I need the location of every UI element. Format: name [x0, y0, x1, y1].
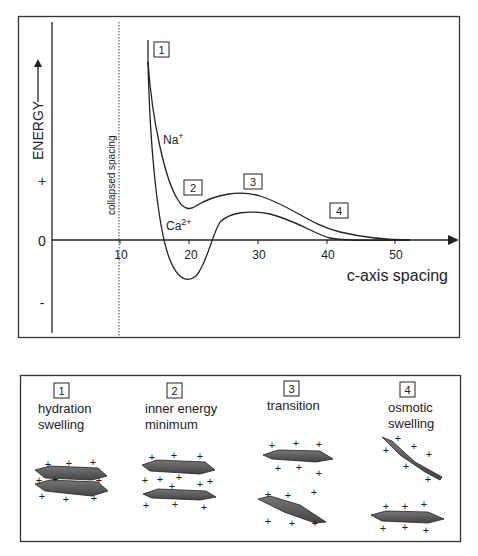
x-tick-40: 40	[321, 248, 335, 262]
svg-text:+: +	[91, 492, 97, 504]
svg-text:+: +	[201, 501, 207, 513]
x-tick-30: 30	[252, 248, 266, 262]
svg-text:+: +	[96, 474, 102, 486]
svg-text:minimum: minimum	[145, 417, 198, 432]
svg-text:+: +	[269, 439, 275, 451]
svg-text:+: +	[66, 457, 72, 469]
svg-text:+: +	[171, 449, 177, 461]
plot-frame	[19, 17, 460, 338]
x-tick-10: 10	[114, 248, 128, 262]
svg-text:inner energy: inner energy	[145, 401, 218, 416]
svg-text:+: +	[316, 438, 322, 450]
na-curve	[148, 62, 410, 240]
svg-text:+: +	[265, 515, 271, 527]
svg-text:+: +	[143, 499, 149, 511]
svg-text:+: +	[289, 517, 295, 529]
svg-text:+: +	[421, 498, 427, 510]
svg-text:2: 2	[190, 182, 196, 194]
svg-text:+: +	[207, 475, 213, 487]
ca-curve	[148, 62, 410, 279]
ca-label: Ca2+	[166, 217, 192, 233]
x-axis-label: c-axis spacing	[347, 267, 448, 284]
svg-text:+: +	[52, 473, 58, 485]
svg-text:+: +	[197, 450, 203, 462]
svg-text:+: +	[383, 500, 389, 512]
svg-text:+: +	[149, 451, 155, 463]
y-tick-plus: +	[38, 173, 46, 189]
marker-2: 2	[184, 180, 202, 195]
svg-text:+: +	[275, 462, 281, 474]
svg-text:1: 1	[158, 44, 164, 56]
y-axis-label: ENERGY	[30, 100, 46, 160]
svg-text:3: 3	[250, 176, 256, 188]
marker-3: 3	[244, 174, 262, 189]
svg-text:swelling: swelling	[38, 417, 84, 432]
svg-text:+: +	[172, 498, 178, 510]
na-label: Na+	[163, 131, 184, 147]
y-axis-label-group: ENERGY	[30, 59, 46, 160]
stage-4: 4 osmotic swelling ++++ ++ +++ +++	[371, 382, 444, 536]
svg-text:+: +	[169, 480, 175, 492]
svg-text:+: +	[285, 489, 291, 501]
svg-text:+: +	[45, 458, 51, 470]
energy-plot-panel: ENERGY + 0 - collapsed spacing 10 20 30 …	[19, 17, 460, 338]
svg-text:+: +	[90, 456, 96, 468]
svg-text:+: +	[197, 478, 203, 490]
svg-text:+: +	[293, 437, 299, 449]
diagram-canvas: ENERGY + 0 - collapsed spacing 10 20 30 …	[0, 0, 478, 556]
y-tick-minus: -	[40, 295, 45, 311]
svg-text:+: +	[425, 473, 431, 485]
svg-text:+: +	[157, 473, 163, 485]
svg-text:+: +	[402, 500, 408, 512]
collapsed-spacing-label: collapsed spacing	[106, 136, 117, 216]
marker-4: 4	[330, 203, 348, 218]
stage-2: 2 inner energy minimum +++ +++++ + +++	[142, 383, 218, 513]
stage-1: 1 hydration swelling +++ +++ +++	[35, 383, 108, 505]
svg-text:+: +	[265, 488, 271, 500]
svg-text:1: 1	[58, 385, 64, 397]
svg-text:+: +	[36, 474, 42, 486]
up-arrow-icon	[34, 59, 42, 67]
svg-text:transition: transition	[267, 398, 320, 413]
svg-text:4: 4	[404, 384, 410, 396]
svg-text:+: +	[312, 517, 318, 529]
y-tick-zero: 0	[38, 233, 46, 249]
svg-text:+: +	[423, 524, 429, 536]
x-tick-50: 50	[389, 248, 403, 262]
svg-text:+: +	[296, 461, 302, 473]
stage-3: 3 transition +++ +++ +++ +++	[258, 381, 333, 529]
svg-text:+: +	[395, 432, 401, 444]
svg-text:+: +	[426, 448, 432, 460]
svg-text:+: +	[403, 460, 409, 472]
svg-text:+: +	[311, 486, 317, 498]
svg-text:swelling: swelling	[388, 416, 434, 431]
svg-text:+: +	[383, 444, 389, 456]
svg-text:osmotic: osmotic	[388, 400, 433, 415]
x-tick-20: 20	[184, 248, 198, 262]
svg-text:2: 2	[171, 385, 177, 397]
right-arrow-icon	[448, 235, 459, 245]
svg-text:+: +	[411, 440, 417, 452]
svg-text:3: 3	[288, 383, 294, 395]
stages-panel: 1 hydration swelling +++ +++ +++ 2 inner…	[21, 376, 461, 542]
svg-text:+: +	[176, 471, 182, 483]
svg-text:+: +	[402, 521, 408, 533]
svg-text:+: +	[142, 474, 148, 486]
svg-text:hydration: hydration	[38, 401, 91, 416]
svg-text:+: +	[380, 522, 386, 534]
svg-text:+: +	[63, 493, 69, 505]
svg-text:+: +	[316, 467, 322, 479]
svg-text:4: 4	[336, 205, 342, 217]
marker-1: 1	[154, 42, 169, 57]
svg-text:+: +	[39, 490, 45, 502]
